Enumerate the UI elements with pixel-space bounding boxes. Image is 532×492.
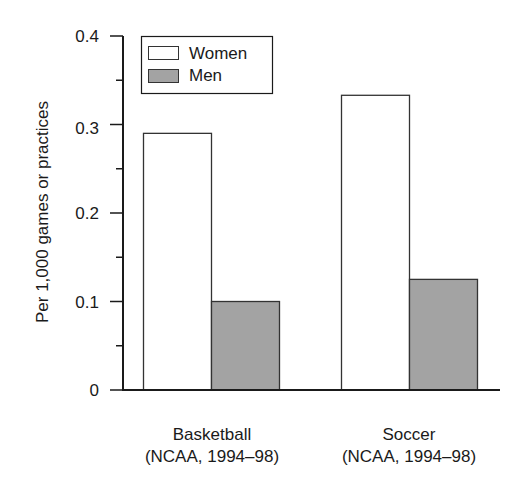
legend-label-women: Women — [189, 44, 247, 63]
bars-group — [144, 95, 478, 390]
y-tick-label: 0.3 — [75, 119, 99, 138]
legend-swatch-women — [149, 47, 179, 60]
y-tick-label: 0.4 — [75, 27, 99, 46]
bar-women-soccer — [342, 95, 410, 390]
bar-women-basketball — [144, 133, 212, 390]
x-category-labels: Basketball (NCAA, 1994–98) Soccer (NCAA,… — [145, 425, 476, 466]
bar-men-soccer — [410, 279, 478, 390]
legend: Women Men — [142, 37, 273, 94]
y-tick-labels: 0.4 0.3 0.2 0.1 0 — [75, 27, 99, 400]
y-tick-label: 0.2 — [75, 204, 99, 223]
category-label-soccer: Soccer — [383, 425, 436, 444]
category-label-basketball: Basketball — [173, 425, 251, 444]
bar-chart: Per 1,000 games or practices 0.4 0.3 0.2… — [0, 0, 532, 492]
legend-label-men: Men — [189, 66, 222, 85]
y-tick-label: 0 — [90, 381, 99, 400]
legend-swatch-men — [149, 70, 179, 83]
y-tick-label: 0.1 — [75, 293, 99, 312]
y-axis-label: Per 1,000 games or practices — [33, 101, 52, 323]
category-label-soccer-sub: (NCAA, 1994–98) — [342, 447, 476, 466]
bar-men-basketball — [212, 302, 280, 391]
category-label-basketball-sub: (NCAA, 1994–98) — [145, 447, 279, 466]
